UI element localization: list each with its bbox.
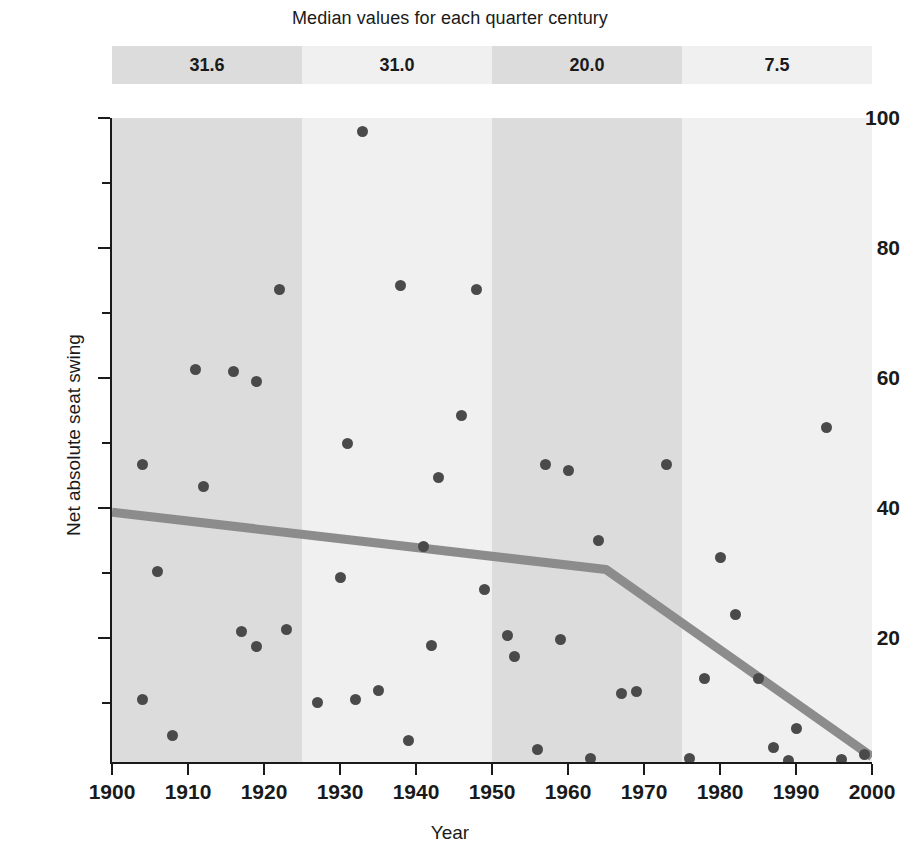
data-point [426,640,437,651]
data-point [190,364,201,375]
y-minor-tick-70 [102,312,110,314]
data-point [684,753,695,762]
x-tick-1910 [187,764,189,775]
trend-line [112,118,872,762]
x-tick-1960 [567,764,569,775]
y-tick-20 [98,637,110,639]
data-point [563,465,574,476]
y-axis-title: Net absolute seat swing [63,125,85,745]
data-point [479,584,490,595]
data-point [836,754,847,762]
data-point [783,755,794,762]
data-point [540,459,551,470]
y-axis-line [110,118,112,763]
x-tick-label-2000: 2000 [849,780,896,804]
data-point [350,694,361,705]
x-tick-label-1900: 1900 [89,780,136,804]
data-point [768,742,779,753]
data-point [137,694,148,705]
data-point [274,284,285,295]
x-tick-1990 [795,764,797,775]
data-point [661,459,672,470]
data-point [821,422,832,433]
y-tick-label-80: 80 [808,236,900,260]
data-point [403,735,414,746]
y-minor-tick-50 [102,442,110,444]
x-tick-label-1940: 1940 [393,780,440,804]
quarter-century-median-strip: 31.631.020.07.5 [112,46,872,84]
data-point [251,376,262,387]
data-point [791,723,802,734]
median-band-label-3: 7.5 [682,46,872,84]
data-point [137,459,148,470]
x-tick-label-1990: 1990 [773,780,820,804]
median-band-label-0: 31.6 [112,46,302,84]
data-point [715,552,726,563]
data-point [152,566,163,577]
x-tick-label-1930: 1930 [317,780,364,804]
y-minor-tick-90 [102,182,110,184]
y-tick-label-20: 20 [808,626,900,650]
median-band-label-1: 31.0 [302,46,492,84]
data-point [373,685,384,696]
y-tick-100 [98,117,110,119]
x-tick-label-1920: 1920 [241,780,288,804]
y-tick-40 [98,507,110,509]
x-tick-label-1910: 1910 [165,780,212,804]
x-tick-label-1970: 1970 [621,780,668,804]
data-point [198,481,209,492]
y-tick-label-60: 60 [808,366,900,390]
y-tick-label-100: 100 [808,106,900,130]
x-tick-2000 [871,764,873,775]
x-tick-1930 [339,764,341,775]
data-point [471,284,482,295]
data-point [357,126,368,137]
x-tick-1980 [719,764,721,775]
data-point [456,410,467,421]
x-tick-1950 [491,764,493,775]
data-point [251,641,262,652]
data-point [312,697,323,708]
data-point [585,753,596,762]
x-tick-1920 [263,764,265,775]
x-tick-1900 [111,764,113,775]
band-title: Median values for each quarter century [0,8,900,29]
data-point [502,630,513,641]
x-tick-1970 [643,764,645,775]
y-minor-tick-30 [102,572,110,574]
data-point [335,572,346,583]
chart-figure: Median values for each quarter century 3… [0,0,900,858]
y-tick-80 [98,247,110,249]
x-axis-title: Year [0,822,900,844]
plot-area [112,118,872,762]
y-tick-label-40: 40 [808,496,900,520]
x-tick-label-1960: 1960 [545,780,592,804]
x-tick-label-1980: 1980 [697,780,744,804]
data-point [433,472,444,483]
x-tick-label-1950: 1950 [469,780,516,804]
data-point [753,673,764,684]
median-band-label-2: 20.0 [492,46,682,84]
x-tick-1940 [415,764,417,775]
y-tick-60 [98,377,110,379]
data-point [616,688,627,699]
y-minor-tick-10 [102,702,110,704]
data-point [593,535,604,546]
